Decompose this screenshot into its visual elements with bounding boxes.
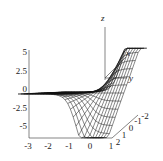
surface-plot: z x y 5 2.5 0 -2.5 -5 -3 -2 -1 0 1 2 1 0… xyxy=(0,0,163,161)
z-tick-label: -2.5 xyxy=(13,103,28,113)
z-tick-label: 0 xyxy=(23,84,28,94)
x-tick-label: -3 xyxy=(24,141,32,151)
y-tick-label: -2 xyxy=(141,111,149,121)
z-tick-label: 5 xyxy=(23,47,28,57)
y-axis-label: y xyxy=(128,73,133,83)
x-tick-label: -1 xyxy=(65,141,73,151)
x-tick-label: 0 xyxy=(88,141,93,151)
y-tick-label: 0 xyxy=(129,123,134,133)
x-tick-label: -2 xyxy=(44,141,52,151)
x-axis-label: x xyxy=(125,48,130,58)
y-tick-label: 1 xyxy=(122,130,127,140)
z-tick-label: -5 xyxy=(20,121,28,131)
z-axis-label: z xyxy=(100,13,105,23)
x-tick-label: 1 xyxy=(109,141,114,151)
y-tick-label: 2 xyxy=(116,137,121,147)
x-axis-line xyxy=(105,57,126,78)
z-tick-label: 2.5 xyxy=(16,66,28,76)
